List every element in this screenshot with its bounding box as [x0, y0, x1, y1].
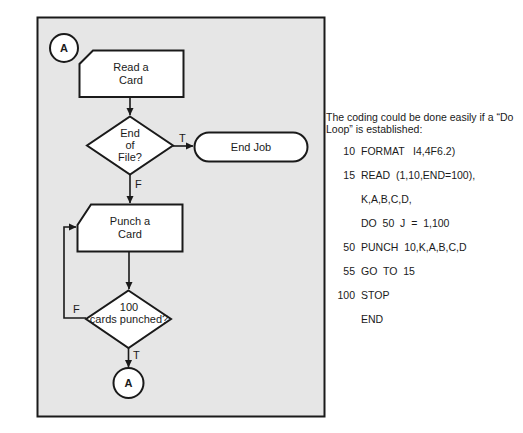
svg-text:A: A	[125, 377, 133, 389]
code-line: 100STOP	[324, 289, 523, 313]
connector-a-top: A	[50, 34, 78, 62]
svg-text:Card: Card	[118, 228, 142, 240]
code-line: 10FORMAT I4,4F6.2)	[324, 145, 523, 169]
code-line: 50PUNCH 10,K,A,B,C,D	[324, 241, 523, 265]
punch-card-node: Punch a Card	[78, 205, 183, 252]
connector-a-bottom: A	[114, 368, 144, 398]
svg-text:File?: File?	[118, 151, 142, 163]
eof-true-label: T	[179, 132, 186, 144]
svg-text:100: 100	[120, 301, 138, 313]
svg-text:Read a: Read a	[113, 61, 149, 73]
svg-text:Card: Card	[119, 74, 143, 86]
check-false-label: F	[73, 303, 80, 315]
check-true-label: T	[133, 349, 140, 361]
svg-text:Punch a: Punch a	[110, 215, 151, 227]
fortran-code-panel: The coding could be done easily if a “Do…	[324, 111, 523, 337]
code-line: 15READ (1,10,END=100),	[324, 169, 523, 193]
svg-text:of: of	[125, 139, 135, 151]
code-line: K,A,B,C,D,	[324, 193, 523, 217]
code-intro-text: The coding could be done easily if a “Do…	[326, 111, 523, 135]
read-card-node: Read a Card	[80, 51, 184, 98]
code-line: DO 50 J = 1,100	[324, 217, 523, 241]
code-line: 55GO TO 15	[324, 265, 523, 289]
svg-text:End Job: End Job	[231, 141, 271, 153]
end-job-terminal: End Job	[195, 133, 308, 162]
svg-text:End: End	[120, 127, 140, 139]
eof-false-label: F	[135, 178, 142, 190]
code-line: END	[324, 313, 523, 337]
svg-text:A: A	[60, 42, 68, 54]
svg-text:cards punched?: cards punched?	[90, 313, 168, 325]
